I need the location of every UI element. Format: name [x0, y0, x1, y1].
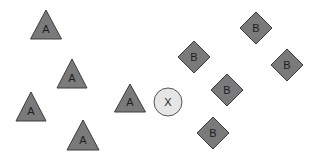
class-a-triangle: A	[16, 92, 46, 121]
class-label: B	[252, 22, 259, 34]
class-a-triangle: A	[115, 84, 146, 112]
class-label: B	[283, 59, 290, 71]
query-point: X	[154, 88, 182, 116]
class-b-diamond: B	[211, 74, 243, 106]
class-label: A	[79, 134, 87, 146]
class-a-triangle: A	[57, 59, 87, 88]
class-a-triangle: A	[31, 10, 62, 39]
query-circle: X	[154, 88, 182, 116]
class-label: B	[223, 84, 230, 96]
class-label: A	[27, 105, 35, 117]
class-b-diamond: B	[271, 49, 303, 81]
class-b-points: BBBBB	[178, 12, 303, 149]
class-label: B	[209, 127, 216, 139]
class-b-diamond: B	[197, 117, 229, 149]
class-a-triangle: A	[67, 120, 99, 150]
class-b-diamond: B	[240, 12, 272, 44]
class-label: B	[190, 51, 197, 63]
class-label: A	[68, 72, 76, 84]
query-label: X	[164, 96, 172, 108]
class-label: A	[42, 23, 50, 35]
knn-classification-diagram: AAAAA BBBBB X	[0, 0, 320, 159]
diagram-svg: AAAAA BBBBB X	[0, 0, 320, 159]
class-b-diamond: B	[178, 41, 210, 73]
class-a-points: AAAAA	[16, 10, 146, 150]
class-label: A	[126, 96, 134, 108]
